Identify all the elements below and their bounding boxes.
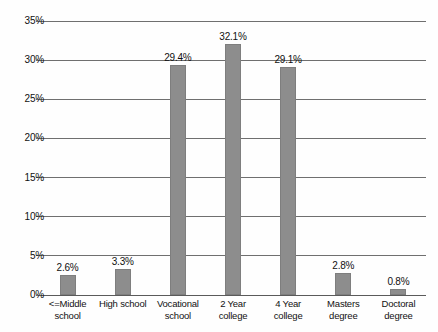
x-axis-category-label: 2 Yearcollege [205, 298, 261, 322]
x-axis-category-label: <=Middleschool [40, 298, 96, 322]
category-label-line: college [205, 310, 261, 322]
x-axis-category-label: Doctoraldegree [370, 298, 426, 322]
plot-area [40, 21, 426, 295]
bar[interactable] [170, 65, 186, 295]
bar-chart: 0%5%10%15%20%25%30%35% 2.6%3.3%29.4%32.1… [0, 0, 438, 332]
x-axis-category-label: Vocationalschool [150, 298, 206, 322]
bar-value-label: 2.8% [315, 260, 371, 271]
x-axis-category-label: 4 Yearcollege [260, 298, 316, 322]
y-axis-tick-label: 30% [8, 55, 44, 65]
category-label-line: 4 Year [260, 298, 316, 310]
x-axis-category-label: Mastersdegree [315, 298, 371, 322]
category-label-line: Masters [315, 298, 371, 310]
category-label-line: degree [370, 310, 426, 322]
y-axis-tick-label: 5% [8, 251, 44, 261]
category-label-line: Vocational [150, 298, 206, 310]
bar-value-label: 0.8% [370, 276, 426, 287]
category-label-line: degree [315, 310, 371, 322]
category-label-line: Doctoral [370, 298, 426, 310]
category-label-line: school [40, 310, 96, 322]
x-axis-category-label: High school [95, 298, 151, 310]
bar-value-label: 32.1% [205, 31, 261, 42]
bar-value-label: 3.3% [95, 256, 151, 267]
bar[interactable] [335, 273, 351, 295]
y-axis-tick-label: 15% [8, 173, 44, 183]
category-label-line: college [260, 310, 316, 322]
category-label-line: High school [95, 298, 151, 310]
category-label-line: 2 Year [205, 298, 261, 310]
bar[interactable] [390, 289, 406, 295]
bar[interactable] [280, 67, 296, 295]
bar-value-label: 2.6% [40, 262, 96, 273]
bar-value-label: 29.1% [260, 54, 316, 65]
y-axis-tick-label: 20% [8, 133, 44, 143]
bar-value-label: 29.4% [150, 52, 206, 63]
y-axis-tick-label: 25% [8, 94, 44, 104]
bar[interactable] [115, 269, 131, 295]
y-axis-tick-label: 35% [8, 16, 44, 26]
bar[interactable] [60, 275, 76, 295]
y-axis-tick-label: 10% [8, 212, 44, 222]
category-label-line: <=Middle [40, 298, 96, 310]
bar[interactable] [225, 44, 241, 295]
category-label-line: school [150, 310, 206, 322]
